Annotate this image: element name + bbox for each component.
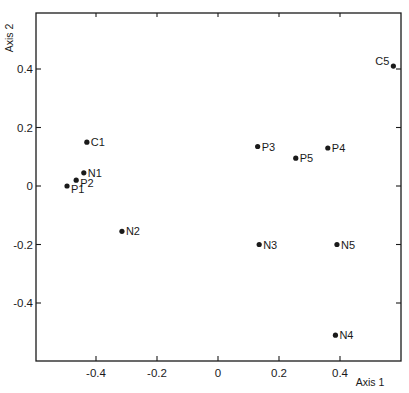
point-label: P5 bbox=[300, 152, 313, 164]
x-tick-label: -0.2 bbox=[147, 367, 167, 379]
data-point-p3: P3 bbox=[255, 141, 275, 153]
point-label: N2 bbox=[126, 225, 140, 237]
data-point-n5: N5 bbox=[334, 239, 355, 251]
data-point-c5: C5 bbox=[375, 55, 396, 69]
point-label: P4 bbox=[332, 142, 345, 154]
data-point-p1: P1 bbox=[64, 183, 84, 195]
y-axis-title: Axis 2 bbox=[3, 24, 15, 53]
point-marker bbox=[119, 229, 124, 234]
point-marker bbox=[391, 63, 396, 68]
y-tick-label: 0.4 bbox=[17, 63, 34, 75]
point-label: P1 bbox=[71, 183, 84, 195]
point-marker bbox=[74, 178, 79, 183]
point-marker bbox=[64, 183, 69, 188]
point-marker bbox=[81, 170, 86, 175]
point-marker bbox=[334, 242, 339, 247]
y-tick-label: 0.2 bbox=[17, 122, 33, 134]
point-marker bbox=[325, 145, 330, 150]
data-points: C1N1P2P1N2P3P5P4C5N3N5N4 bbox=[64, 55, 396, 341]
x-tick-label: 0.4 bbox=[332, 367, 349, 379]
point-label: N5 bbox=[341, 239, 355, 251]
data-point-n2: N2 bbox=[119, 225, 140, 237]
point-marker bbox=[333, 333, 338, 338]
point-label: P3 bbox=[262, 141, 275, 153]
x-tick-label: 0 bbox=[215, 367, 221, 379]
x-axis-title: Axis 1 bbox=[356, 376, 385, 388]
data-point-p4: P4 bbox=[325, 142, 345, 154]
point-label: C5 bbox=[375, 55, 389, 67]
data-point-p5: P5 bbox=[293, 152, 313, 164]
x-tick-label: -0.4 bbox=[86, 367, 106, 379]
y-tick-label: -0.4 bbox=[13, 297, 33, 309]
point-label: C1 bbox=[91, 136, 105, 148]
data-point-n4: N4 bbox=[333, 329, 354, 341]
point-marker bbox=[257, 242, 262, 247]
point-marker bbox=[293, 156, 298, 161]
x-axis-ticks: -0.4-0.200.20.4 bbox=[86, 13, 349, 379]
scatter-plot: -0.4-0.200.20.4 -0.4-0.200.20.4 C1N1P2P1… bbox=[0, 0, 409, 393]
y-tick-label: -0.2 bbox=[13, 239, 33, 251]
point-label: N3 bbox=[263, 239, 277, 251]
y-tick-label: 0 bbox=[27, 180, 33, 192]
x-tick-label: 0.2 bbox=[271, 367, 287, 379]
data-point-c1: C1 bbox=[84, 136, 105, 148]
point-marker bbox=[84, 140, 89, 145]
point-marker bbox=[255, 144, 260, 149]
point-label: N4 bbox=[339, 329, 353, 341]
data-point-n3: N3 bbox=[257, 239, 278, 251]
